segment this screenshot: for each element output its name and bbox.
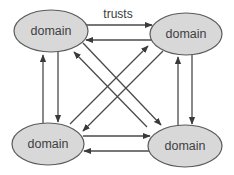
trust-diagram: trusts domain domain domain domain [0,0,234,175]
edge-top-right-to-bottom-left [83,51,163,131]
node-top-left: domain [14,10,88,52]
edge-top-left-to-bottom-right [83,43,161,125]
node-label: domain [166,27,207,41]
trusts-label: trusts [103,7,132,21]
node-bottom-left: domain [12,123,84,165]
node-label: domain [28,137,69,151]
edge-bottom-right-to-top-left [74,52,147,127]
node-top-right: domain [150,13,222,55]
edge-bottom-left-to-top-right [70,46,148,124]
node-bottom-right: domain [148,125,222,167]
node-label: domain [165,139,206,153]
node-label: domain [31,24,72,38]
